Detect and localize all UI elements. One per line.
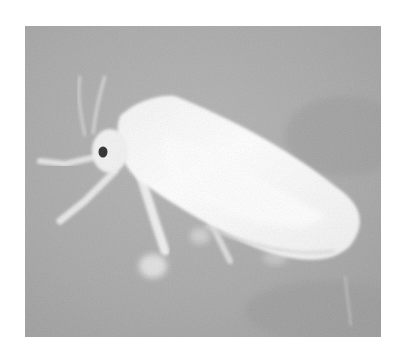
photo-grain xyxy=(25,26,381,337)
insect-photo xyxy=(25,26,381,337)
